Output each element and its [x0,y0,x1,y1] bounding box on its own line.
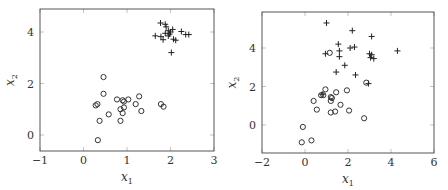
plus-marker [351,44,357,50]
y-tick-label: 2 [249,81,256,94]
figure: −10123024x1x2−20246024x1x2 [0,0,448,190]
x-tick-label: 0 [302,156,309,169]
plus-marker [168,50,174,56]
circle-marker [120,98,125,103]
plus-marker [368,55,374,61]
circle-marker [299,140,304,145]
plot-left: −10123024x1x2 [3,9,218,186]
y-tick-label: 4 [27,26,34,39]
circle-marker [344,88,349,93]
x-tick-label: −1 [32,154,48,167]
plus-marker [186,32,192,38]
plus-marker [157,20,163,26]
plus-marker [333,69,339,75]
plus-marker [324,20,330,26]
circle-marker [137,94,142,99]
y-axis-label-sub: 2 [232,77,241,82]
y-tick-label: 0 [249,119,256,132]
x-tick-label: 2 [345,156,352,169]
plot-right: −20246024x1x2 [225,12,438,188]
circle-marker [118,118,123,123]
circle-marker [95,138,100,143]
circle-marker [114,97,119,102]
plot-frame [262,12,434,153]
y-axis-label-sub: 2 [10,74,19,79]
circle-marker [300,124,305,129]
x-tick-label: 3 [211,154,218,167]
plus-marker [347,45,353,51]
circle-marker [311,98,316,103]
circle-marker [314,107,319,112]
circle-marker [126,97,131,102]
circle-marker [346,108,351,113]
x-axis-label-sub: 1 [349,179,354,188]
plus-marker [342,62,348,68]
circle-marker [334,90,339,95]
x-axis-label: x1 [121,170,133,186]
x-tick-label: 1 [124,154,131,167]
plus-marker [335,41,341,47]
plus-marker [353,72,359,78]
x-tick-label: 4 [388,156,395,169]
plus-marker [178,28,184,34]
scatter-plot-left: −10123024x1x2−20246024x1x2 [0,0,448,190]
circle-marker [338,102,343,107]
circle-marker [139,108,144,113]
y-tick-label: 0 [27,129,34,142]
plot-frame [40,9,214,151]
circle-marker [101,91,106,96]
x-tick-label: −2 [254,156,270,169]
circle-marker [323,87,328,92]
x-tick-label: 2 [167,154,174,167]
plus-marker [369,33,375,39]
circle-marker [327,50,332,55]
circle-marker [309,138,314,143]
y-axis-label: x2 [225,77,241,89]
plus-marker [349,28,355,34]
circle-marker [133,102,138,107]
plus-marker [152,33,158,39]
x-axis-label-sub: 1 [128,177,133,186]
plus-marker [336,48,342,54]
circle-marker [106,112,111,117]
x-axis-label: x1 [342,172,354,188]
circle-marker [97,118,102,123]
x-tick-label: 6 [431,156,438,169]
circle-marker [101,74,106,79]
y-tick-label: 4 [249,42,256,55]
plus-marker [336,54,342,60]
y-axis-label: x2 [3,74,19,86]
circle-marker [362,116,367,121]
plus-marker [394,48,400,54]
x-tick-label: 0 [80,154,87,167]
y-tick-label: 2 [27,78,34,91]
